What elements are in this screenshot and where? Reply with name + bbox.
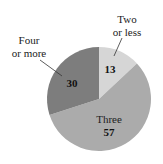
label-two-or-less-line1: Two [117,13,137,25]
label-four-or-more-line2: or more [12,47,47,59]
value-three: 57 [104,126,116,138]
label-four-or-more-line1: Four [19,34,40,46]
label-two-or-less-line2: or less [113,26,141,38]
pie-slices [47,47,151,151]
label-three: Three [96,113,122,125]
value-two-or-less: 13 [105,63,117,75]
pie-chart: Two or less 13 Four or more 30 Three 57 [0,0,163,164]
value-four-or-more: 30 [67,77,79,89]
